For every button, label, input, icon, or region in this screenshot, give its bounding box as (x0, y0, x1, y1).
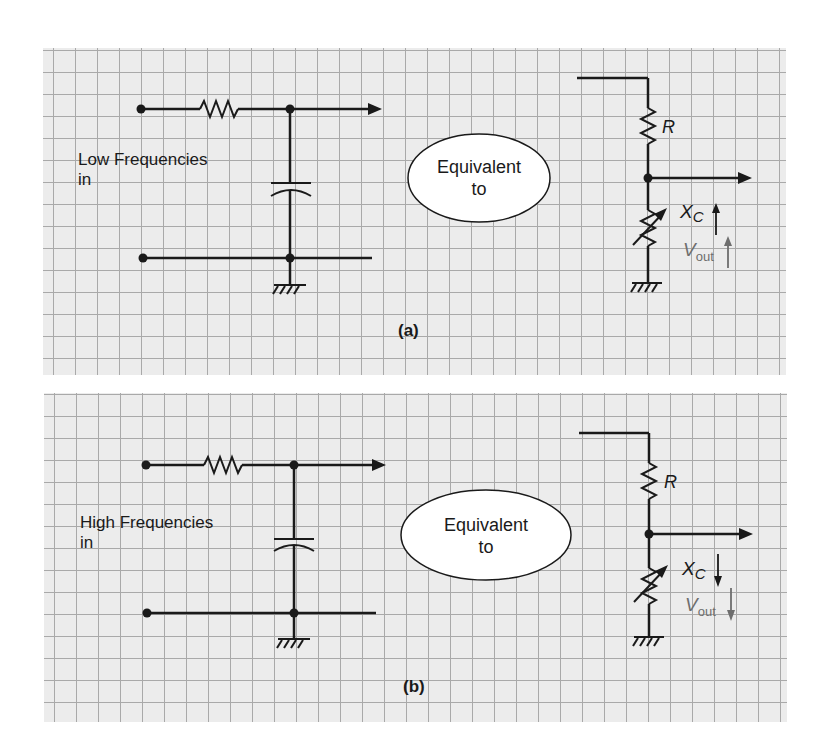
junction-dot (644, 174, 653, 183)
equivalence-line2: to (408, 178, 550, 200)
vout-label-a: Vout (683, 240, 714, 262)
input-label-line2: in (80, 533, 213, 553)
vout-main: V (685, 594, 698, 615)
xc-sub: C (695, 565, 706, 582)
resistor-R-icon (642, 463, 656, 499)
equivalence-line1: Equivalent (408, 156, 550, 178)
xc-main: X (682, 558, 695, 579)
input-label-line1: High Frequencies (80, 513, 213, 533)
resistor-icon (204, 457, 242, 473)
resistor-icon (200, 101, 238, 117)
equivalence-line1: Equivalent (410, 514, 562, 536)
voltage-divider-b (579, 433, 753, 646)
vout-label-b: Vout (685, 595, 716, 617)
xc-sub: C (693, 208, 704, 225)
ground-icon (631, 283, 662, 292)
panel-caption-b: (b) (403, 677, 425, 697)
vout-trend-down-arrow-icon (727, 588, 735, 621)
ground-icon (633, 637, 664, 646)
equivalence-text-b: Equivalent to (410, 514, 562, 558)
input-label-line1: Low Frequencies (78, 150, 207, 170)
resistor-label-b: R (664, 472, 677, 492)
junction-dot (645, 530, 654, 539)
input-label-b: High Frequencies in (80, 513, 213, 553)
vout-trend-up-arrow-icon (724, 236, 732, 268)
vout-sub: out (698, 604, 716, 619)
rc-lowpass-filter-a (141, 101, 382, 294)
ground-icon (273, 285, 306, 294)
xc-trend-down-arrow-icon (714, 554, 722, 587)
circuit-diagrams (0, 0, 823, 752)
xc-label-a: XC (680, 202, 704, 223)
resistor-R-icon (641, 108, 655, 144)
xc-trend-up-arrow-icon (712, 203, 720, 235)
vout-sub: out (696, 249, 714, 264)
resistor-label-a: R (662, 117, 675, 137)
xc-main: X (680, 201, 693, 222)
input-label-line2: in (78, 170, 207, 190)
xc-label-b: XC (682, 559, 706, 580)
voltage-divider-a (577, 78, 752, 292)
equivalence-line2: to (410, 536, 562, 558)
equivalence-text-a: Equivalent to (408, 156, 550, 200)
ground-icon (277, 639, 310, 648)
vout-main: V (683, 239, 696, 260)
input-label-a: Low Frequencies in (78, 150, 207, 190)
panel-caption-a: (a) (398, 321, 419, 341)
